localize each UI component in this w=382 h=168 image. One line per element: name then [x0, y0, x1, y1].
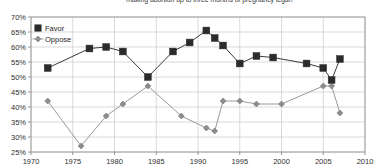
- y-axis-tick-label: 55%: [11, 58, 26, 67]
- legend-label-favor: Favor: [45, 24, 65, 33]
- x-axis-tick-label: 2000: [273, 157, 290, 166]
- y-axis-tick-label: 30%: [11, 133, 26, 142]
- x-axis-tick-label: 2010: [357, 157, 374, 166]
- legend-marker-favor: [35, 25, 41, 31]
- chart-container: making abortion up to three months of pr…: [0, 0, 382, 168]
- data-point-favor: Favor 1981: 58.5%: [119, 48, 126, 55]
- data-point-favor: Favor 2005: 53%: [320, 65, 327, 72]
- data-point-favor: Favor 1977: 59.5%: [86, 45, 93, 52]
- data-point-oppose: Oppose 1997: 41%: [253, 101, 259, 107]
- data-point-favor: Favor 1979: 60%: [103, 44, 110, 51]
- data-point-oppose: Oppose 1992: 32%: [212, 128, 218, 134]
- y-axis-tick-label: 70%: [11, 13, 26, 22]
- data-point-favor: Favor 1991: 65.5%: [203, 27, 210, 34]
- y-axis-tick-label: 50%: [11, 73, 26, 82]
- data-point-favor: Favor 1972: 53%: [44, 65, 51, 72]
- data-point-oppose: Oppose 2005: 47%: [320, 83, 326, 89]
- data-point-favor: Favor 1993: 60.5%: [220, 42, 227, 49]
- y-axis-tick-label: 65%: [11, 28, 26, 37]
- data-point-oppose: Oppose 2006: 47%: [329, 83, 335, 89]
- data-point-oppose: Oppose 1993: 42%: [220, 98, 226, 104]
- legend-label-oppose: Oppose: [45, 35, 71, 44]
- data-point-favor: Favor 2003: 54.5%: [303, 60, 310, 67]
- data-point-favor: Favor 1992: 63%: [211, 35, 218, 42]
- x-axis-tick-label: 1980: [106, 157, 123, 166]
- y-axis-tick-label: 60%: [11, 43, 26, 52]
- data-point-favor: Favor 1999: 56.5%: [270, 54, 277, 61]
- data-point-favor: Favor 1989: 61.5%: [186, 39, 193, 46]
- data-point-favor: Favor 1984: 50%: [145, 74, 152, 81]
- line-chart: 70%65%60%55%50%45%40%35%30%25%1970197519…: [0, 0, 382, 168]
- data-point-favor: Favor 2007: 56%: [337, 56, 344, 63]
- x-axis-tick-label: 1990: [190, 157, 207, 166]
- x-axis-tick-label: 1970: [23, 157, 40, 166]
- data-point-favor: Favor 2006: 49%: [328, 77, 335, 84]
- data-point-oppose: Oppose 1995: 42%: [237, 98, 243, 104]
- x-axis-tick-label: 1995: [231, 157, 248, 166]
- series-line-favor: [48, 31, 340, 81]
- x-axis-tick-label: 1975: [64, 157, 81, 166]
- y-axis-tick-label: 35%: [11, 118, 26, 127]
- data-point-oppose: Oppose 2007: 38%: [337, 110, 343, 116]
- y-axis-tick-label: 25%: [11, 148, 26, 157]
- data-point-favor: Favor 1997: 57%: [253, 53, 260, 60]
- data-point-oppose: Oppose 2000: 41%: [279, 101, 285, 107]
- data-point-oppose: Oppose 1991: 33%: [203, 125, 209, 131]
- y-axis-tick-label: 40%: [11, 103, 26, 112]
- data-point-favor: Favor 1995: 54.5%: [236, 60, 243, 67]
- data-point-favor: Favor 1987: 58.5%: [170, 48, 177, 55]
- y-axis-tick-label: 45%: [11, 88, 26, 97]
- x-axis-tick-label: 1985: [148, 157, 165, 166]
- x-axis-tick-label: 2005: [315, 157, 332, 166]
